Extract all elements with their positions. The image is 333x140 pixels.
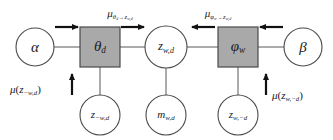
node-label-z-w-d: zw,d: [158, 39, 174, 54]
node-label-theta-d: θd: [94, 39, 106, 56]
node-label-alpha: α: [31, 40, 39, 55]
message-label-phi-to-z: μφw→zw,d: [205, 8, 232, 21]
node-label-m-w-d: mw,d: [157, 109, 174, 122]
message-label-z-minus-w-d: μ(z−w,d): [10, 84, 41, 97]
message-label-theta-to-z: μθd→zw,d: [107, 8, 132, 21]
node-label-beta: β: [299, 40, 306, 55]
node-label-phi-w: φw: [231, 39, 246, 56]
message-label-z-w-minus-d: μ(zw,−d): [272, 90, 303, 103]
node-label-z-minus-w-d: z−w,d: [91, 109, 109, 122]
node-label-z-w-minus-d: zw,−d: [229, 109, 247, 122]
factor-graph-diagram: α θd zw,d φw β z−w,d mw,d zw,−d μθd→zw,d…: [0, 0, 333, 140]
